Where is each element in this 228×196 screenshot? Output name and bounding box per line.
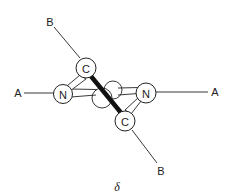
- svg-text:C: C: [82, 63, 90, 75]
- svg-text:N: N: [59, 89, 67, 101]
- atom-n-right: N: [136, 83, 156, 103]
- svg-text:C: C: [121, 116, 129, 128]
- caption-delta: δ: [114, 180, 120, 194]
- molecule-diagram: C N N C B A A B δ: [0, 0, 228, 196]
- atom-n-left: N: [54, 85, 73, 104]
- atom-c-top: C: [76, 58, 96, 78]
- label-a-left: A: [14, 87, 22, 99]
- double-bond-left-1: [70, 89, 97, 90]
- double-bond-right-1: [118, 88, 140, 89]
- label-b-top: B: [46, 16, 53, 28]
- label-a-right: A: [211, 86, 219, 98]
- label-b-bottom: B: [157, 165, 164, 177]
- svg-text:N: N: [142, 88, 150, 100]
- atom-c-bottom: C: [115, 111, 135, 131]
- bond-b-top: [54, 27, 80, 58]
- bond-b-bottom: [132, 130, 157, 163]
